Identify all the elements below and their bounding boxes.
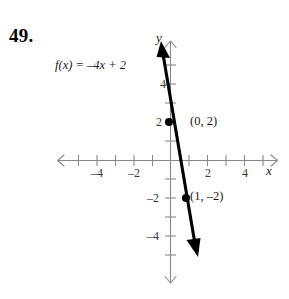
- x-tick-label-neg2: –2: [121, 166, 147, 181]
- point-marker-1-neg2: [182, 194, 190, 202]
- y-tick-label-neg4: –4: [133, 229, 159, 244]
- y-tick-label-neg2: –2: [133, 191, 159, 206]
- x-tick-label-2: 2: [195, 166, 221, 181]
- x-tick-label-neg4: –4: [84, 166, 110, 181]
- function-line: [163, 51, 196, 244]
- y-axis-label: y: [156, 30, 162, 46]
- graph-figure: 49. f(x) = –4x + 2: [0, 0, 289, 299]
- point-marker-0-2: [165, 118, 173, 126]
- y-tick-label-4: 4: [140, 77, 166, 92]
- x-tick-label-4: 4: [232, 166, 258, 181]
- point-label-1-neg2: (1, –2): [190, 189, 223, 204]
- point-label-0-2: (0, 2): [190, 114, 217, 129]
- coordinate-plane: [0, 0, 289, 299]
- y-tick-label-2: 2: [136, 115, 162, 130]
- x-axis-label: x: [266, 163, 272, 179]
- function-line-down-arrow-icon: [187, 238, 201, 257]
